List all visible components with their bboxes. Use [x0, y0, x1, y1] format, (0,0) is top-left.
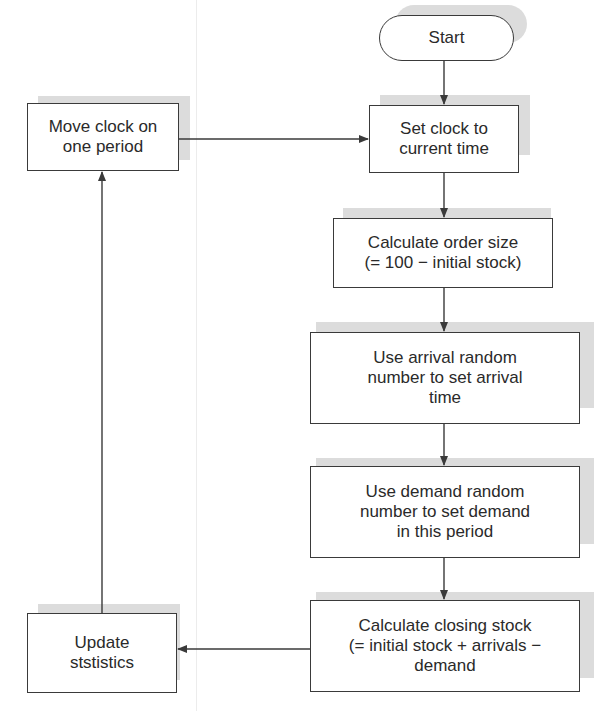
- set-clock-box[interactable]: Set clock to current time: [369, 105, 519, 173]
- start-terminal[interactable]: Start: [379, 15, 514, 61]
- demand-box[interactable]: Use demand random number to set demand i…: [310, 466, 580, 558]
- arrival-label: Use arrival random number to set arrival…: [368, 348, 523, 408]
- page-gutter-line: [196, 0, 197, 711]
- calc-order-box[interactable]: Calculate order size (= 100 − initial st…: [333, 218, 553, 288]
- move-clock-label: Move clock on one period: [49, 117, 158, 157]
- update-stats-label: Update ststistics: [70, 633, 134, 673]
- move-clock-box[interactable]: Move clock on one period: [27, 103, 179, 171]
- update-stats-box[interactable]: Update ststistics: [27, 613, 177, 693]
- demand-label: Use demand random number to set demand i…: [360, 482, 530, 542]
- start-label: Start: [429, 28, 465, 48]
- calc-order-label: Calculate order size (= 100 − initial st…: [365, 233, 522, 273]
- arrival-box[interactable]: Use arrival random number to set arrival…: [310, 332, 580, 424]
- closing-label: Calculate closing stock (= initial stock…: [349, 616, 541, 676]
- closing-box[interactable]: Calculate closing stock (= initial stock…: [310, 600, 580, 692]
- set-clock-label: Set clock to current time: [399, 119, 489, 159]
